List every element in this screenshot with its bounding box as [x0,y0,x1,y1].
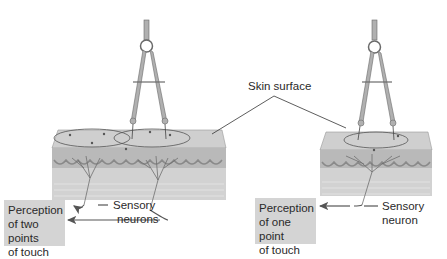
skin-surface-label: Skin surface [248,79,311,93]
right-skin-block [320,132,432,205]
perception-two-line-3: of touch [8,245,61,259]
perception-two-line-2: of two points [8,217,61,245]
sensory-neurons-line-1: Sensory [113,198,159,212]
perception-one-line-3: of touch [259,243,312,257]
sensory-neurons-line-2: neurons [113,212,159,226]
perception-two-points-box: Perception of two points of touch [4,200,65,246]
perception-one-line-1: Perception [259,201,312,215]
right-neuron-arrow [320,205,378,206]
perception-two-line-1: Perception [8,203,61,217]
perception-one-point-box: Perception of one point of touch [255,198,316,244]
left-compass [130,20,168,139]
sensory-neurons-label: Sensory neurons [113,198,159,226]
sensory-neuron-line-1: Sensory [382,199,424,213]
skin-surface-leaders [212,96,346,134]
sensory-neuron-label: Sensory neuron [382,199,424,227]
perception-one-line-2: of one point [259,215,312,243]
right-compass [358,20,396,140]
sensory-neuron-line-2: neuron [382,213,424,227]
